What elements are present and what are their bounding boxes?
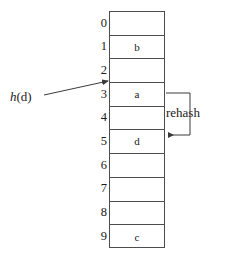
table-row: c — [110, 225, 164, 249]
slot-index: 1 — [93, 35, 107, 59]
rehash-label: rehash — [166, 106, 200, 119]
hash-function-label: h(d) — [10, 90, 32, 103]
cell-value: d — [134, 136, 140, 147]
slot-index: 6 — [93, 153, 107, 177]
hash-table-body: b a d c — [109, 11, 165, 248]
hash-table-diagram: 0 1 2 3 4 5 6 7 8 9 b a d — [0, 0, 226, 259]
slot-index: 2 — [93, 58, 107, 82]
cell-value: b — [134, 42, 140, 53]
cell-value: c — [135, 232, 140, 243]
slot-index: 3 — [93, 82, 107, 106]
table-row — [110, 154, 164, 178]
slot-index: 0 — [93, 11, 107, 35]
slot-index: 8 — [93, 201, 107, 225]
slot-index: 5 — [93, 129, 107, 153]
slot-index: 4 — [93, 106, 107, 130]
slot-index-column: 0 1 2 3 4 5 6 7 8 9 — [93, 11, 107, 248]
table-row — [110, 12, 164, 36]
table-row — [110, 202, 164, 226]
cell-value: a — [135, 89, 140, 100]
table-row — [110, 59, 164, 83]
slot-index: 7 — [93, 177, 107, 201]
table-row: d — [110, 130, 164, 154]
hash-function-argument: (d) — [17, 89, 32, 104]
table-row: a — [110, 83, 164, 107]
table-row — [110, 107, 164, 131]
slot-index: 9 — [93, 224, 107, 248]
table-row: b — [110, 36, 164, 60]
table-row — [110, 178, 164, 202]
